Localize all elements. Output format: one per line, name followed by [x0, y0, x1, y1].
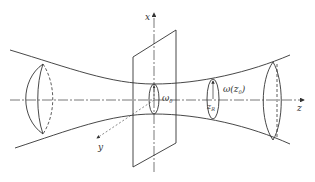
- beam-envelope-top: [10, 50, 290, 84]
- right-cross-section: [263, 62, 281, 140]
- z-axis-label: z: [296, 103, 302, 113]
- beam-envelope-bottom: [15, 114, 290, 148]
- y-axis-label: y: [97, 142, 104, 152]
- waist-cross-section: [149, 84, 159, 114]
- y-axis: [97, 100, 154, 138]
- beam-radius-label: ω(z0): [223, 84, 246, 95]
- gaussian-beam-diagram: x y z ω0 ω(z0) zR: [0, 0, 315, 182]
- waist-label: ω0: [162, 93, 173, 104]
- left-cross-section: [26, 64, 53, 134]
- rayleigh-label: zR: [206, 102, 215, 112]
- mid-cross-section: [207, 79, 219, 119]
- x-axis-label: x: [145, 12, 150, 22]
